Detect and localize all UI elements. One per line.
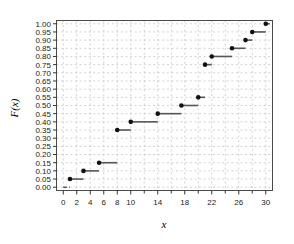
y-tick-label: 0.65 bbox=[35, 77, 51, 86]
data-point bbox=[230, 46, 235, 51]
x-tick-label: 26 bbox=[234, 198, 243, 207]
y-axis-ticks bbox=[53, 24, 57, 187]
y-tick-label: 0.85 bbox=[35, 44, 51, 53]
data-point bbox=[68, 177, 73, 182]
data-point bbox=[155, 111, 160, 116]
y-tick-label: 0.30 bbox=[35, 134, 51, 143]
y-tick-label: 0.95 bbox=[35, 28, 51, 37]
y-tick-labels: 0.000.050.100.150.200.250.300.350.400.45… bbox=[35, 20, 51, 192]
data-point bbox=[179, 103, 184, 108]
y-tick-label: 0.40 bbox=[35, 118, 51, 127]
data-point bbox=[250, 30, 255, 35]
x-tick-label: 6 bbox=[102, 198, 107, 207]
ecdf-chart: 0.000.050.100.150.200.250.300.350.400.45… bbox=[0, 0, 294, 244]
x-tick-label: 14 bbox=[153, 198, 162, 207]
y-tick-label: 0.35 bbox=[35, 126, 51, 135]
y-tick-label: 0.75 bbox=[35, 61, 51, 70]
y-tick-label: 0.10 bbox=[35, 167, 51, 176]
data-point bbox=[115, 128, 120, 133]
y-tick-label: 0.60 bbox=[35, 85, 51, 94]
y-tick-label: 0.15 bbox=[35, 159, 51, 168]
x-tick-label: 4 bbox=[88, 198, 93, 207]
data-point bbox=[263, 21, 268, 26]
y-axis-title: F(x) bbox=[8, 98, 21, 118]
x-tick-label: 8 bbox=[115, 198, 120, 207]
y-tick-label: 0.50 bbox=[35, 101, 51, 110]
x-tick-label: 22 bbox=[207, 198, 216, 207]
data-point bbox=[128, 120, 133, 125]
y-tick-label: 0.90 bbox=[35, 36, 51, 45]
x-tick-labels: 02468101418222630 bbox=[61, 198, 271, 207]
chart-canvas: 0.000.050.100.150.200.250.300.350.400.45… bbox=[0, 0, 294, 244]
data-point bbox=[97, 160, 102, 165]
x-axis-ticks bbox=[63, 191, 266, 195]
y-tick-label: 0.80 bbox=[35, 52, 51, 61]
x-tick-label: 30 bbox=[261, 198, 270, 207]
data-point bbox=[209, 54, 214, 59]
x-tick-label: 0 bbox=[61, 198, 66, 207]
data-point bbox=[81, 169, 86, 174]
svg-text:x: x bbox=[161, 218, 167, 230]
y-tick-label: 0.00 bbox=[35, 183, 51, 192]
x-tick-label: 18 bbox=[180, 198, 189, 207]
y-tick-label: 1.00 bbox=[35, 20, 51, 29]
data-point bbox=[203, 62, 208, 67]
x-tick-label: 2 bbox=[75, 198, 80, 207]
data-point bbox=[243, 38, 248, 43]
y-tick-label: 0.05 bbox=[35, 175, 51, 184]
y-tick-label: 0.20 bbox=[35, 150, 51, 159]
y-tick-label: 0.70 bbox=[35, 69, 51, 78]
x-tick-label: 10 bbox=[126, 198, 135, 207]
y-tick-label: 0.25 bbox=[35, 142, 51, 151]
svg-text:F(x): F(x) bbox=[8, 98, 21, 118]
data-point bbox=[196, 95, 201, 100]
y-tick-label: 0.45 bbox=[35, 110, 51, 119]
x-axis-title: x bbox=[161, 218, 167, 230]
y-tick-label: 0.55 bbox=[35, 93, 51, 102]
